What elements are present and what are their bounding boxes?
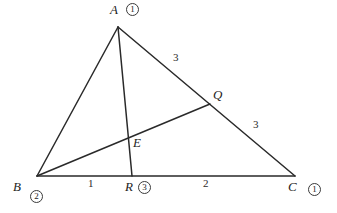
label-A: A — [110, 3, 118, 16]
cevian-BQ — [37, 104, 210, 176]
label-R: R — [125, 180, 133, 193]
label-E: E — [133, 136, 141, 149]
mass-C: 1 — [308, 183, 321, 196]
cevian-AR — [118, 27, 132, 176]
label-C: C — [288, 180, 297, 193]
segment-length-BR: 1 — [88, 178, 94, 189]
label-Q: Q — [213, 88, 222, 101]
figure-canvas — [0, 0, 337, 213]
segment-length-RC: 2 — [203, 178, 209, 189]
side-AC — [118, 27, 295, 176]
geometry-figure: ABCQRE 1213 3312 — [0, 0, 337, 213]
label-B: B — [13, 180, 21, 193]
mass-A: 1 — [126, 3, 139, 16]
mass-B: 2 — [30, 190, 43, 203]
mass-R: 3 — [138, 181, 151, 194]
segment-length-QC: 3 — [253, 119, 259, 130]
segment-length-AQ: 3 — [173, 52, 179, 63]
side-AB — [37, 27, 118, 176]
